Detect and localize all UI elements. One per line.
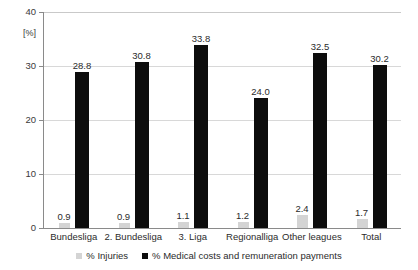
y-tick-label-40: 40 [0,7,36,17]
legend-item-costs[interactable]: % Medical costs and remuneration payment… [142,250,342,261]
bar-label-costs-2-bundesliga: 30.8 [125,50,159,61]
bar-costs-other-leagues[interactable] [313,53,327,229]
x-category-label-3-liga: 3. Liga [163,231,223,243]
bar-label-injuries-3-liga: 1.1 [166,210,200,221]
bar-group-3-liga: 1.1 33.8 [163,12,223,228]
legend-item-injuries[interactable]: % Injuries [76,250,128,261]
y-tick-label-10: 10 [0,169,36,179]
plot-area: 0.9 28.8 0.9 30.8 1.1 33.8 1.2 24.0 [44,12,401,228]
x-axis-line [43,228,401,229]
x-category-label-2-bundesliga: 2. Bundesliga [104,231,164,243]
bar-label-injuries-bundesliga: 0.9 [47,211,81,222]
y-tick-0 [39,228,44,229]
bar-costs-total[interactable] [373,65,387,228]
chart-legend: % Injuries % Medical costs and remunerat… [0,250,418,261]
bar-label-injuries-regionalliga: 1.2 [226,210,260,221]
bar-chart: 40 [%] 30 20 10 0 0.9 28.8 0.9 30.8 [0,0,418,270]
y-tick-label-30: 30 [0,61,36,71]
bar-label-costs-bundesliga: 28.8 [65,60,99,71]
bar-injuries-2-bundesliga[interactable] [119,223,130,228]
x-category-label-total: Total [342,231,402,243]
bar-injuries-total[interactable] [357,219,368,228]
legend-swatch-icon-costs [142,253,148,259]
bar-label-costs-other-leagues: 32.5 [303,41,337,52]
bar-label-injuries-total: 1.7 [345,207,379,218]
legend-label-costs: % Medical costs and remuneration payment… [152,250,342,261]
bar-costs-2-bundesliga[interactable] [135,62,149,228]
bar-label-costs-regionalliga: 24.0 [244,86,278,97]
bar-group-2-bundesliga: 0.9 30.8 [104,12,164,228]
bar-label-costs-total: 30.2 [363,53,397,64]
y-tick-label-20: 20 [0,115,36,125]
bar-group-bundesliga: 0.9 28.8 [44,12,104,228]
bar-injuries-other-leagues[interactable] [297,215,308,228]
x-category-label-other-leagues: Other leagues [282,231,342,243]
y-tick-label-0: 0 [0,223,36,233]
legend-label-injuries: % Injuries [86,250,128,261]
bar-label-costs-3-liga: 33.8 [184,33,218,44]
bar-injuries-3-liga[interactable] [178,222,189,228]
bar-injuries-bundesliga[interactable] [59,223,70,228]
bar-group-regionalliga: 1.2 24.0 [223,12,283,228]
bar-group-total: 1.7 30.2 [342,12,402,228]
legend-swatch-icon-injuries [76,253,82,259]
bar-injuries-regionalliga[interactable] [238,222,249,228]
bar-costs-bundesliga[interactable] [75,72,89,228]
x-category-label-regionalliga: Regionalliga [223,231,283,243]
y-axis-unit-label: [%] [0,28,36,38]
x-category-label-bundesliga: Bundesliga [44,231,104,243]
bar-label-injuries-other-leagues: 2.4 [285,203,319,214]
bar-group-other-leagues: 2.4 32.5 [282,12,342,228]
bar-label-injuries-2-bundesliga: 0.9 [107,211,141,222]
bar-costs-3-liga[interactable] [194,45,208,228]
